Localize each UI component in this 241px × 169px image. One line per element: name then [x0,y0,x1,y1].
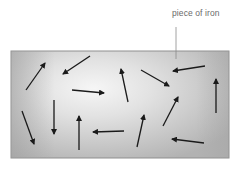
iron-domain-diagram [0,0,241,169]
piece-of-iron-label: piece of iron [172,8,220,18]
